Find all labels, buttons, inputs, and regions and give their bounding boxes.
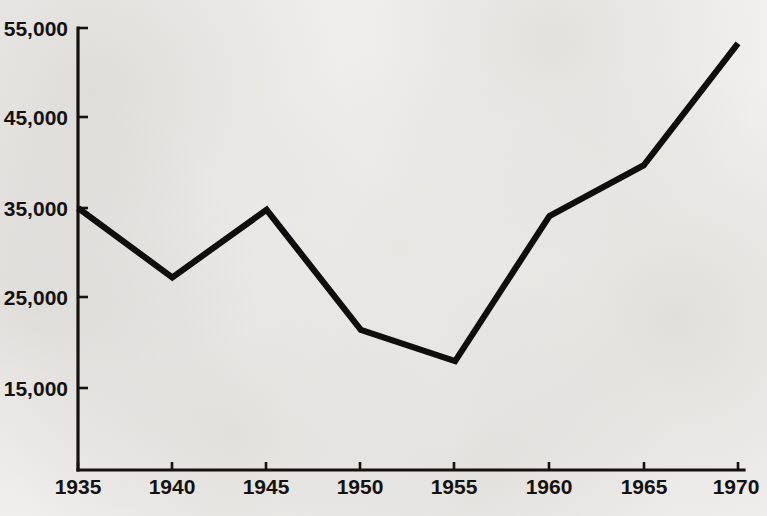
y-axis-tick-label-45000: 45,000 — [4, 106, 68, 129]
y-axis-tick-label-25000: 25,000 — [4, 286, 68, 309]
data-series-line — [78, 43, 738, 361]
y-axis-tick-label-35000: 35,000 — [4, 197, 68, 220]
x-axis-tick-label-1935: 1935 — [55, 475, 102, 498]
line-chart: 55,000 45,000 35,000 25,000 15,000 1935 … — [0, 0, 767, 516]
chart-page: 55,000 45,000 35,000 25,000 15,000 1935 … — [0, 0, 767, 516]
y-axis-tick-label-15000: 15,000 — [4, 377, 68, 400]
x-axis-tick-label-1955: 1955 — [431, 475, 478, 498]
x-axis-tick-label-1945: 1945 — [243, 475, 290, 498]
x-axis-tick-label-1940: 1940 — [149, 475, 196, 498]
x-axis-tick-label-1965: 1965 — [621, 475, 668, 498]
x-axis-tick-label-1950: 1950 — [337, 475, 384, 498]
y-axis-tick-label-55000: 55,000 — [4, 17, 68, 40]
x-axis-tick-label-1960: 1960 — [526, 475, 573, 498]
x-axis-tick-label-1970: 1970 — [713, 475, 760, 498]
